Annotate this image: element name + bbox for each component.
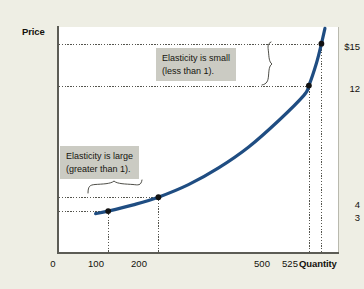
annotation-elasticity-small-line1: Elasticity is small bbox=[162, 52, 230, 65]
data-point-500-12 bbox=[306, 83, 312, 89]
data-point-200-4 bbox=[156, 194, 162, 200]
data-point-100-3 bbox=[105, 208, 111, 214]
annotation-elasticity-large: Elasticity is large (greater than 1). bbox=[60, 146, 139, 179]
elasticity-demand-chart: Price Quantity $15 12 4 3 0 100 200 500 … bbox=[0, 0, 364, 289]
brace-elasticity-large bbox=[88, 180, 142, 193]
annotation-elasticity-large-line1: Elasticity is large bbox=[66, 150, 133, 163]
chart-vector-layer bbox=[0, 0, 364, 289]
brace-elasticity-small bbox=[262, 42, 272, 85]
annotation-elasticity-large-line2: (greater than 1). bbox=[66, 163, 133, 176]
data-point-525-15 bbox=[319, 41, 325, 47]
annotation-elasticity-small: Elasticity is small (less than 1). bbox=[156, 48, 236, 81]
annotation-elasticity-small-line2: (less than 1). bbox=[162, 65, 230, 78]
